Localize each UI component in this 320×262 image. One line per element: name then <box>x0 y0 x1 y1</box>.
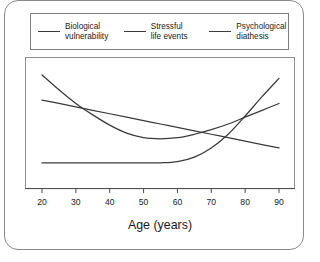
x-axis-tick-labels: 2030405060708090 <box>25 197 295 211</box>
legend-line-swatch-icon <box>124 31 146 32</box>
x-axis-tick-label: 40 <box>105 197 115 207</box>
plot-curves <box>25 57 295 189</box>
x-axis-tick-label: 80 <box>240 197 250 207</box>
x-axis-tick-label: 30 <box>71 197 81 207</box>
legend-line-swatch-icon <box>38 31 60 32</box>
legend-item-biological-vulnerability: Biological vulnerability <box>31 22 117 41</box>
line-chart-figure: Biological vulnerability Stressful life … <box>0 0 320 262</box>
x-axis-title: Age (years) <box>0 218 320 232</box>
legend-item-stressful-life-events: Stressful life events <box>117 22 203 41</box>
legend-item-label: Biological vulnerability <box>65 22 108 41</box>
x-axis-tick-label: 20 <box>37 197 47 207</box>
x-axis-tick-label: 70 <box>207 197 217 207</box>
series-line-2 <box>42 78 279 162</box>
legend-item-psychological-diathesis: Psychological diathesis <box>202 22 288 41</box>
x-axis-tick-label: 90 <box>274 197 284 207</box>
series-line-1 <box>42 100 279 148</box>
x-axis-tick-label: 60 <box>173 197 183 207</box>
legend-item-label: Psychological diathesis <box>236 22 286 41</box>
chart-legend: Biological vulnerability Stressful life … <box>30 13 289 50</box>
legend-item-label: Stressful life events <box>151 22 188 41</box>
legend-line-swatch-icon <box>209 31 231 32</box>
x-axis-tick-label: 50 <box>139 197 149 207</box>
